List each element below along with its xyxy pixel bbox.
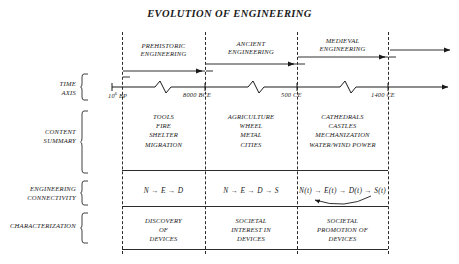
content-item: MECHANIZATION (297, 130, 388, 139)
era-label-medieval: MEDIEVAL ENGINEERING (297, 37, 388, 54)
content-item: MIGRATION (122, 140, 205, 149)
connectivity-expression: N → E → D (122, 186, 205, 195)
row-label-line: CHARACTERIZATION (0, 222, 76, 231)
era-boundary-stubs (123, 57, 396, 77)
characterization-line: DEVICES (122, 234, 205, 243)
tick-label-2: 500 CE (281, 91, 302, 98)
tick-value: 10 (108, 92, 115, 99)
tick-label-0: 106 BP (108, 91, 127, 99)
separator-connectivity-3 (297, 206, 388, 207)
connectivity-cell-medieval: N(t) → E(t) → D(t) → S(t) (297, 186, 388, 195)
content-item: SHELTER (122, 130, 205, 139)
content-item: WHEEL (205, 121, 297, 130)
separator-content-summary-1 (122, 170, 205, 171)
content-summary-cell-medieval: CATHEDRALS CASTLES MECHANIZATION WATER/W… (297, 112, 388, 149)
characterization-line: PROMOTION OF (297, 225, 388, 234)
tick-suffix: BP (117, 92, 127, 99)
time-axis-ticks (112, 83, 388, 91)
brace-engineering-connectivity (80, 180, 90, 206)
era-label-prehistoric: PREHISTORIC ENGINEERING (122, 42, 205, 59)
row-label-line: CONNECTIVITY (0, 194, 76, 203)
evolution-of-engineering-figure: EVOLUTION OF ENGINEERING PREHISTORIC ENG… (0, 0, 459, 264)
column-divider-4 (388, 32, 389, 254)
characterization-cell-prehistoric: DISCOVERY OF DEVICES (122, 216, 205, 244)
content-item: WATER/WIND POWER (297, 140, 388, 149)
connectivity-cell-prehistoric: N → E → D (122, 186, 205, 195)
separator-connectivity-1 (122, 206, 205, 207)
brace-time-axis (80, 73, 90, 101)
content-item: FIRE (122, 121, 205, 130)
characterization-line: SOCIETAL (297, 216, 388, 225)
connectivity-expression: N → E → D → S (205, 186, 297, 195)
separator-bottom-1 (122, 249, 205, 250)
era-label-ancient: ANCIENT ENGINEERING (205, 40, 297, 57)
era-line: PREHISTORIC (122, 42, 205, 50)
row-label-line: ENGINEERING (0, 185, 76, 194)
characterization-line: INTEREST IN (205, 225, 297, 234)
row-label-line: SUMMARY (0, 137, 76, 146)
connectivity-cell-ancient: N → E → D → S (205, 186, 297, 195)
figure-title: EVOLUTION OF ENGINEERING (0, 8, 459, 19)
content-item: CITIES (205, 140, 297, 149)
connectivity-expression: N(t) → E(t) → D(t) → S(t) (297, 186, 388, 195)
content-item: AGRICULTURE (205, 112, 297, 121)
era-line: ENGINEERING (122, 50, 205, 58)
content-summary-cell-prehistoric: TOOLS FIRE SHELTER MIGRATION (122, 112, 205, 149)
characterization-cell-medieval: SOCIETAL PROMOTION OF DEVICES (297, 216, 388, 244)
era-line: ENGINEERING (297, 45, 388, 53)
content-item: TOOLS (122, 112, 205, 121)
era-line: ENGINEERING (205, 48, 297, 56)
characterization-line: SOCIETAL (205, 216, 297, 225)
separator-bottom-2 (205, 249, 297, 250)
separator-content-summary-2 (205, 170, 297, 171)
row-label-content-summary: CONTENT SUMMARY (0, 128, 76, 145)
tick-label-1: 8000 BCE (183, 91, 211, 98)
connectivity-feedback-arrow (315, 196, 371, 204)
characterization-line: DISCOVERY (122, 216, 205, 225)
content-item: METAL (205, 130, 297, 139)
content-item: CATHEDRALS (297, 112, 388, 121)
row-label-line: AXIS (0, 89, 76, 98)
time-axis-line (112, 81, 448, 93)
separator-content-summary-3 (297, 170, 388, 171)
brace-characterization (80, 212, 90, 244)
tick-value: 8000 BCE (183, 91, 211, 98)
tick-value: 1400 CE (371, 91, 395, 98)
characterization-line: DEVICES (205, 234, 297, 243)
separator-connectivity-2 (205, 206, 297, 207)
content-summary-cell-ancient: AGRICULTURE WHEEL METAL CITIES (205, 112, 297, 149)
characterization-line: OF (122, 225, 205, 234)
row-label-characterization: CHARACTERIZATION (0, 222, 76, 231)
tick-label-3: 1400 CE (371, 91, 395, 98)
era-line: MEDIEVAL (297, 37, 388, 45)
content-item: CASTLES (297, 121, 388, 130)
row-label-line: CONTENT (0, 128, 76, 137)
separator-bottom-3 (297, 249, 388, 250)
brace-content-summary (80, 110, 90, 174)
row-label-line: TIME (0, 80, 76, 89)
row-label-engineering-connectivity: ENGINEERING CONNECTIVITY (0, 185, 76, 202)
era-line: ANCIENT (205, 40, 297, 48)
row-label-time-axis: TIME AXIS (0, 80, 76, 97)
characterization-line: DEVICES (297, 234, 388, 243)
tick-value: 500 CE (281, 91, 302, 98)
characterization-cell-ancient: SOCIETAL INTEREST IN DEVICES (205, 216, 297, 244)
